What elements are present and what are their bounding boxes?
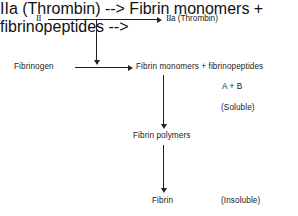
prothrombin-roman-numeral: II: [36, 13, 41, 23]
thrombin-label-suffix: a (Thrombin): [171, 14, 218, 23]
node-insoluble-annotation: (Insoluble): [221, 196, 260, 206]
node-fibrin: Fibrin: [152, 196, 173, 206]
node-fibrinogen: Fibrinogen: [14, 62, 54, 72]
node-fibrin-monomers: Fibrin monomers + fibrinopeptides: [136, 62, 263, 72]
node-fibrinopeptides-ab: A + B: [222, 82, 242, 92]
node-prothrombin: II: [36, 13, 41, 23]
node-fibrin-polymers: Fibrin polymers: [133, 131, 190, 141]
node-thrombin: IIa (Thrombin): [166, 13, 218, 24]
fibrin-formation-diagram: IIa (Thrombin) --> II IIa (Thrombin) Fib…: [0, 0, 298, 216]
node-soluble-annotation: (Soluble): [221, 103, 255, 113]
